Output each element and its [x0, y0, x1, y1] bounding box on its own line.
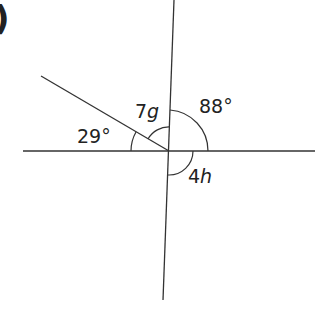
- angle-label-7g: 7g: [135, 100, 159, 122]
- arc-29: [131, 132, 136, 151]
- part-marker: ): [0, 0, 10, 38]
- angle-label-88: 88°: [199, 95, 233, 117]
- arc-7g: [148, 127, 170, 139]
- angle-diagram: ) 29° 7g 88° 4h: [0, 0, 326, 310]
- angle-label-29: 29°: [77, 125, 111, 147]
- angle-label-4h: 4h: [188, 165, 212, 187]
